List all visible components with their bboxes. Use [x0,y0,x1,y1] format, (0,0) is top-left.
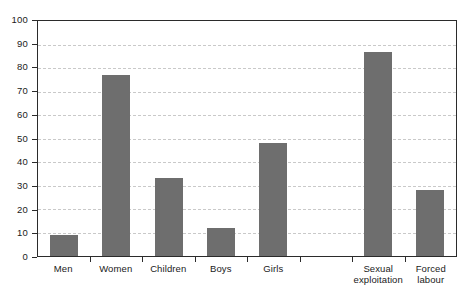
x-axis-label-line: Men [37,263,90,274]
x-tick-mark [300,257,301,262]
x-tick-mark [195,257,196,262]
bar[interactable] [416,190,444,256]
x-axis-label-men: Men [37,263,90,285]
y-tick-label: 10 [17,229,28,239]
y-tick-label: 70 [17,86,28,96]
bar-slot [247,21,299,256]
bar[interactable] [50,235,78,256]
y-axis: 1009080706050403020100 [0,20,37,257]
x-tick-mark [142,257,143,262]
bar-slot [143,21,195,256]
y-tick-label: 40 [17,157,28,167]
x-axis-label-sexual-exploitation: Sexualexploitation [352,263,405,285]
x-axis-labels: MenWomenChildrenBoysGirlsSexualexploitat… [37,263,457,285]
x-axis-label-boys: Boys [195,263,248,285]
y-tick-label: 20 [17,205,28,215]
x-axis-label-children: Children [142,263,195,285]
bar-slot [195,21,247,256]
bars-group [38,21,456,256]
bar-slot [299,21,351,256]
y-tick-label: 50 [17,134,28,144]
x-tick-mark [247,257,248,262]
y-tick-label: 0 [23,252,28,262]
bar-slot [352,21,404,256]
x-axis-label-line: Forced [405,263,458,274]
x-axis-label-line: Boys [195,263,248,274]
x-axis-label-forced-labour: Forcedlabour [405,263,458,285]
plot-area [37,20,457,257]
y-tick-label: 100 [12,15,28,25]
x-tick-mark [352,257,353,262]
y-tick-label: 90 [17,39,28,49]
x-axis-label-line: labour [405,274,458,285]
y-tick-label: 60 [17,110,28,120]
x-tick-mark [90,257,91,262]
bar-slot [38,21,90,256]
bar[interactable] [155,178,183,256]
x-axis-label-line: Girls [247,263,300,274]
bar-slot [404,21,456,256]
bar[interactable] [364,52,392,256]
x-axis-label-line: Children [142,263,195,274]
x-tick-mark [405,257,406,262]
bar-slot [90,21,142,256]
x-axis-label-empty [300,263,353,285]
x-axis-label-line: Women [90,263,143,274]
bar[interactable] [207,228,235,256]
bar[interactable] [259,143,287,256]
y-tick-label: 30 [17,181,28,191]
x-axis-label-girls: Girls [247,263,300,285]
x-axis-label-line: Sexual [352,263,405,274]
x-axis-label-line: exploitation [352,274,405,285]
x-axis-label-women: Women [90,263,143,285]
bar[interactable] [102,75,130,256]
y-tick-label: 80 [17,63,28,73]
bar-chart: 1009080706050403020100 MenWomenChildrenB… [0,0,474,299]
